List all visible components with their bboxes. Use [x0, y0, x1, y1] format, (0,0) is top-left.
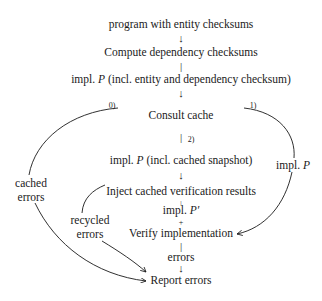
bar-connector-icon: | [180, 132, 182, 143]
label-cached: cached [15, 177, 47, 190]
node-verify: Verify implementation [129, 227, 233, 240]
impl-prefix: impl. [71, 73, 98, 85]
node-consult-cache: Consult cache [149, 109, 214, 122]
label-recycled: recycled [71, 214, 110, 227]
node-program: program with entity checksums [109, 18, 254, 31]
recycled-errors-arrow [102, 241, 146, 272]
down-arrow-icon: ↓ [178, 33, 184, 44]
branch-label-2: 2) [188, 135, 195, 144]
node-impl-snapshot: impl. P (incl. cached snapshot) [110, 154, 252, 167]
node-impl-prime: impl. P′ [163, 204, 199, 217]
node-compute: Compute dependency checksums [104, 46, 257, 59]
impl-prefix: impl. [110, 154, 137, 166]
bar-connector-icon: | [180, 61, 182, 72]
impl-var: P [98, 73, 105, 85]
label-recycled-errors: errors [77, 228, 104, 241]
label-cached-errors: errors [18, 191, 45, 204]
impl-prefix: impl. [163, 204, 190, 216]
label-impl-right: impl. P [276, 159, 310, 172]
node-report: Report errors [151, 274, 212, 287]
impl-prefix: impl. [276, 159, 303, 171]
impl-right-arrow [237, 172, 292, 234]
impl-var: P′ [190, 204, 200, 216]
inject-recycled-curve [82, 185, 105, 213]
branch-label-1: 1) [250, 101, 257, 110]
branch-0-curve [29, 108, 118, 175]
impl-suffix: (incl. cached snapshot) [144, 154, 253, 166]
impl-var: P [137, 154, 144, 166]
down-arrow-icon: ↓ [178, 88, 184, 99]
branch-label-0: 0) [109, 101, 116, 110]
impl-var: P [303, 159, 310, 171]
impl-suffix: (incl. entity and dependency checksum) [105, 73, 291, 85]
node-inject: Inject cached verification results [106, 185, 256, 198]
down-arrow-icon: ↓ [178, 170, 184, 181]
node-impl-full: impl. P (incl. entity and dependency che… [71, 73, 291, 86]
down-arrow-icon: ↓ [178, 263, 184, 274]
branch-1-curve [244, 108, 294, 158]
